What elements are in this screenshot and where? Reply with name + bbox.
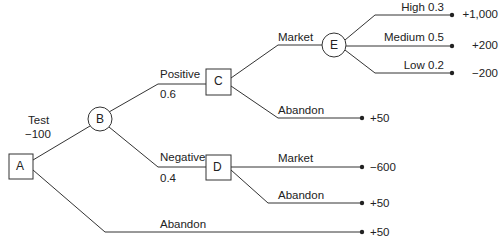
branch-label-d-abandon: Abandon	[278, 189, 324, 202]
payoff-high: +1,000	[440, 8, 498, 21]
node-label-c: C	[214, 75, 223, 88]
branch-label-negative: Negative	[160, 151, 205, 164]
terminal-dot-a-abandon	[360, 230, 364, 234]
branch-label-c-market: Market	[278, 31, 313, 44]
branch-label-d-market: Market	[278, 152, 313, 165]
payoff-d-market: −600	[370, 161, 396, 174]
terminal-dot-c-abandon	[360, 116, 364, 120]
branch-label-medium: Medium 0.5	[370, 31, 444, 44]
node-label-e: E	[330, 39, 338, 52]
payoff-d-abandon: +50	[370, 197, 390, 210]
terminal-dot-d-abandon	[360, 201, 364, 205]
branch-label-low: Low 0.2	[380, 59, 444, 72]
branch-value-test: −100	[25, 128, 51, 141]
payoff-c-abandon: +50	[370, 112, 390, 125]
branch-label-high: High 0.3	[380, 1, 444, 14]
branch-prob-positive: 0.6	[160, 88, 176, 101]
branch-label-a-abandon: Abandon	[160, 218, 206, 231]
node-label-b: B	[96, 113, 104, 126]
branch-prob-negative: 0.4	[160, 172, 176, 185]
node-label-d: D	[213, 161, 222, 174]
payoff-low: −200	[440, 67, 498, 80]
branch-label-test: Test	[28, 114, 49, 127]
payoff-medium: +200	[440, 39, 498, 52]
node-label-a: A	[16, 160, 24, 173]
terminal-dot-d-market	[360, 165, 364, 169]
payoff-a-abandon: +50	[370, 226, 390, 239]
branch-label-positive: Positive	[160, 68, 200, 81]
branch-label-c-abandon: Abandon	[278, 104, 324, 117]
